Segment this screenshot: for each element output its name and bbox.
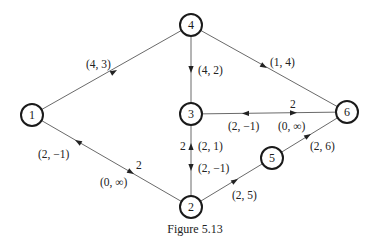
node-6-label: 6: [344, 105, 350, 119]
node-3: 3: [180, 103, 202, 125]
node-1-label: 1: [29, 108, 35, 122]
network-diagram: (4, 3) (4, 2) (1, 4) (2, −1) (0, ∞) 2 2 …: [0, 0, 379, 238]
node-4-label: 4: [188, 18, 194, 32]
arrow-5-to-6-icon: [304, 132, 313, 140]
edge-label-3-6: (0, ∞): [278, 120, 306, 133]
arrow-3-to-2-icon: [188, 164, 193, 171]
edge-1-4: [32, 25, 191, 115]
edge-1-2: [32, 115, 191, 207]
edge-capacity-3-6: 2: [290, 98, 296, 110]
edge-label-3-2: (2, −1): [198, 162, 230, 175]
nodes: 1 2 3 4 5 6: [21, 14, 358, 218]
edge-label-2-5: (2, 5): [232, 189, 257, 202]
node-2-label: 2: [188, 200, 194, 214]
edge-capacity-3-2: 2: [180, 140, 186, 152]
edge-label-2-3: (2, 1): [198, 140, 223, 153]
edge-label-6-3: (2, −1): [228, 120, 260, 133]
arrow-3-to-6-icon: [290, 110, 297, 115]
arrow-6-to-3-icon: [242, 111, 249, 116]
node-1: 1: [21, 104, 43, 126]
node-6: 6: [336, 101, 358, 123]
arrow-4-to-3-icon: [188, 66, 193, 73]
arrow-2-to-3-icon: [188, 143, 193, 150]
edge-label-1-2: (0, ∞): [100, 176, 128, 189]
edge-label-1-4: (4, 3): [86, 58, 111, 71]
edge-label-2-1: (2, −1): [38, 148, 70, 161]
edge-capacity-1-2: 2: [136, 159, 142, 171]
arrow-1-to-2-icon: [127, 168, 136, 176]
edge-label-4-6: (1, 4): [270, 56, 295, 69]
node-4: 4: [180, 14, 202, 36]
figure-caption: Figure 5.13: [167, 222, 222, 236]
node-2: 2: [180, 196, 202, 218]
node-3-label: 3: [188, 107, 194, 121]
edge-label-5-6: (2, 6): [310, 140, 335, 153]
node-5-label: 5: [269, 151, 275, 165]
arrow-2-to-1-icon: [74, 138, 83, 146]
node-5: 5: [261, 147, 283, 169]
edge-label-4-3: (4, 2): [198, 64, 223, 77]
edge-labels: (4, 3) (4, 2) (1, 4) (2, −1) (0, ∞) 2 2 …: [38, 56, 335, 202]
edge-3-6: [191, 112, 347, 114]
